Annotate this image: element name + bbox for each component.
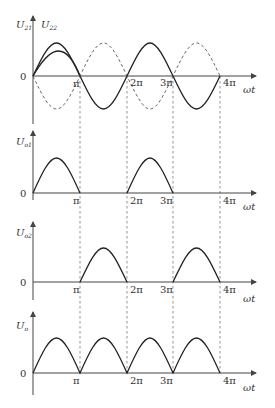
origin-label: 0 — [20, 71, 26, 82]
tick-4pi: 4π — [223, 77, 236, 88]
origin-label: 0 — [20, 188, 26, 199]
tick-2pi: 2π — [130, 284, 143, 295]
tick-4pi: 4π — [223, 284, 236, 295]
uo2-wave — [80, 248, 220, 282]
y-label-uo2: Uo2 — [16, 227, 32, 239]
tick-4pi: 4π — [223, 375, 236, 386]
uo-wave — [33, 338, 220, 373]
tick-2pi: 2π — [130, 375, 143, 386]
guide-lines — [80, 76, 220, 373]
x-axis-label: ωt — [243, 382, 256, 393]
tick-2pi: 2π — [130, 77, 143, 88]
tick-pi: π — [73, 375, 80, 386]
tick-3pi: 3π — [160, 195, 173, 206]
y-label-u21: U21 — [16, 19, 32, 31]
origin-label: 0 — [20, 277, 26, 288]
y-label-uo: Uo — [16, 320, 28, 332]
u21-wave — [33, 51, 80, 76]
tick-3pi: 3π — [160, 375, 173, 386]
rectifier-waveform-diagram: U21 U22 0 π 2π 3π 4π ωt Uo1 0 π 2π 3π 4π… — [0, 0, 275, 408]
y-label-u22: U22 — [41, 19, 57, 31]
tick-3pi: 3π — [160, 77, 173, 88]
x-axis-label: ωt — [243, 201, 256, 212]
tick-3pi: 3π — [160, 284, 173, 295]
tick-2pi: 2π — [130, 195, 143, 206]
origin-label: 0 — [20, 368, 26, 379]
x-axis-label: ωt — [243, 84, 256, 95]
tick-pi: π — [73, 78, 80, 89]
uo1-wave — [33, 158, 173, 193]
tick-pi: π — [73, 195, 80, 206]
tick-4pi: 4π — [223, 195, 236, 206]
tick-pi: π — [73, 284, 80, 295]
x-axis-label: ωt — [243, 293, 256, 304]
y-label-uo1: Uo1 — [16, 136, 32, 148]
